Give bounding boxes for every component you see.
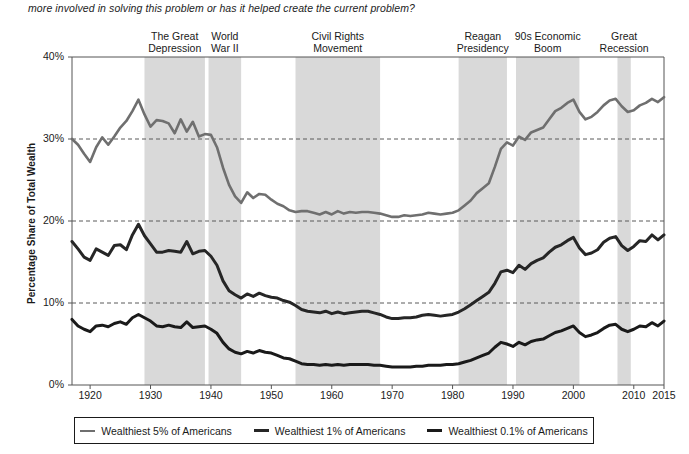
plot-area: [0, 0, 689, 454]
wealth-share-chart: The Great DepressionWorld War IICivil Ri…: [0, 0, 689, 454]
chart-legend: Wealthiest 5% of AmericansWealthiest 1% …: [74, 417, 594, 444]
legend-swatch-icon-1: [254, 429, 269, 432]
legend-entry-2[interactable]: Wealthiest 0.1% of Americans: [427, 425, 587, 437]
legend-swatch-icon-2: [427, 429, 442, 432]
legend-entry-1[interactable]: Wealthiest 1% of Americans: [254, 425, 406, 437]
legend-entry-0[interactable]: Wealthiest 5% of Americans: [80, 425, 232, 437]
legend-label-0: Wealthiest 5% of Americans: [101, 425, 232, 437]
legend-label-2: Wealthiest 0.1% of Americans: [448, 425, 587, 437]
legend-label-1: Wealthiest 1% of Americans: [275, 425, 406, 437]
legend-swatch-icon-0: [80, 430, 95, 432]
era-band-0: [144, 57, 204, 385]
